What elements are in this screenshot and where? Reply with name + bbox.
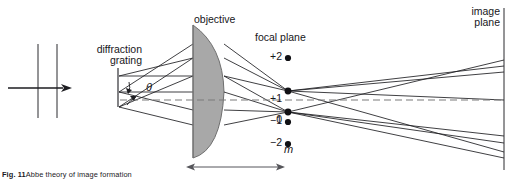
ray-plus1-to-image-mid: [288, 91, 504, 100]
order-dot-zero: [285, 109, 292, 116]
abbe-theory-figure: diffraction grating objective focal plan…: [0, 0, 512, 180]
order-dot-plus2: [285, 55, 291, 61]
ray-grating-minus-lower: [119, 107, 193, 125]
ray-zero-to-image-mid: [288, 112, 504, 143]
ray-plus1-to-image-upper: [288, 66, 504, 91]
focal-plane-order-dots: [285, 55, 292, 147]
figure-caption-text: Abbe theory of image formation: [26, 170, 132, 179]
ray-zero-to-image-upper: [288, 60, 504, 112]
order-label-minus1: −1: [250, 115, 282, 126]
objective-label: objective: [194, 14, 235, 25]
order-dot-plus1: [285, 88, 292, 95]
ray-lens-to-plus1-b: [224, 58, 288, 91]
ray-lens-to-zero-c: [224, 110, 288, 112]
order-label-plus1: +1: [250, 93, 282, 104]
ray-upper-to-image-a: [288, 72, 504, 91]
figure-caption: Fig. 11Abbe theory of image formation: [2, 170, 132, 179]
theta-angle-label: θ: [146, 82, 152, 94]
ray-zero-to-image-lower: [288, 112, 504, 158]
order-label-minus2: −2: [250, 137, 282, 148]
order-dot-minus1: [285, 119, 291, 125]
incident-wavefront-group: [8, 44, 72, 118]
diffraction-grating-label: diffraction grating: [66, 44, 142, 67]
rays-focal-plane-to-image-plane: [288, 60, 504, 158]
order-variable-label: m: [284, 144, 293, 156]
order-label-plus2: +2: [250, 51, 282, 62]
optics-ray-diagram: [0, 0, 512, 180]
objective-lens: [193, 25, 224, 158]
ray-lower-to-image-a: [288, 112, 504, 136]
figure-caption-number: Fig. 11: [2, 170, 26, 179]
image-plane-label: image plane: [448, 6, 500, 29]
theta-arc-upper-head: [126, 88, 132, 94]
focal-plane-label: focal plane: [255, 32, 306, 43]
focal-distance-arrow: [186, 164, 285, 171]
